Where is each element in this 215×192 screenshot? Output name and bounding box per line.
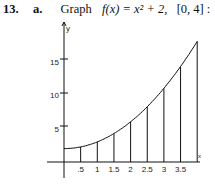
x-tick-label: 2.5 <box>142 165 154 174</box>
y-tick-labels: 51015 <box>50 58 59 134</box>
x-tick-label: 1 <box>95 165 100 174</box>
x-tick-labels: .511.522.533.5 <box>77 165 186 174</box>
y-tick-label: 5 <box>55 125 60 134</box>
function-graph: y x 51015 .511.522.533.5 <box>0 0 215 192</box>
x-axis-label: x <box>198 153 201 159</box>
y-tick-label: 10 <box>50 91 59 100</box>
vertical-lines <box>81 41 198 162</box>
x-tick-label: 3.5 <box>175 165 187 174</box>
axes <box>47 22 200 178</box>
x-tick-label: 2 <box>128 165 133 174</box>
x-tick-label: 3 <box>162 165 167 174</box>
x-tick-label: .5 <box>77 165 84 174</box>
y-tick-label: 15 <box>50 58 59 67</box>
y-axis-label: y <box>66 24 70 33</box>
x-tick-label: 1.5 <box>108 165 120 174</box>
